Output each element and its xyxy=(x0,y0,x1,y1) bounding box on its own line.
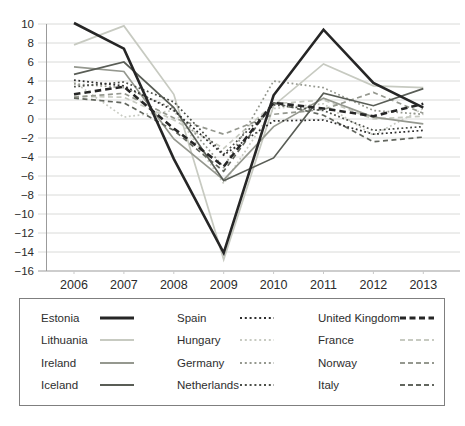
y-tick-label: −16 xyxy=(14,265,34,277)
x-tick-label: 2010 xyxy=(260,278,288,292)
legend-item-lithuania: Lithuania xyxy=(20,329,163,351)
y-tick-label: 6 xyxy=(28,56,34,68)
y-tick-label: 10 xyxy=(21,18,34,30)
legend-label: Norway xyxy=(318,357,399,369)
legend-label: Italy xyxy=(318,379,399,391)
legend-item-estonia: Estonia xyxy=(20,307,163,329)
series-line-netherlands xyxy=(74,82,423,154)
legend-item-norway: Norway xyxy=(309,352,444,374)
legend-item-iceland: Iceland xyxy=(20,374,163,396)
legend-label: United Kingdom xyxy=(318,312,399,324)
x-tick-label: 2011 xyxy=(310,278,337,292)
y-tick-label: −8 xyxy=(21,189,34,201)
legend-line-sample xyxy=(99,312,135,324)
legend-item-ireland: Ireland xyxy=(20,352,163,374)
line-chart: 1086420−2−4−6−8−10−12−14−162006200720082… xyxy=(0,0,465,296)
y-tick-label: −10 xyxy=(14,208,34,220)
figure: 1086420−2−4−6−8−10−12−14−162006200720082… xyxy=(0,0,465,426)
y-tick-label: 8 xyxy=(28,37,34,49)
x-tick-label: 2006 xyxy=(60,278,88,292)
legend-label: Netherlands xyxy=(177,379,239,391)
legend-label: Iceland xyxy=(41,379,99,391)
series-line-lithuania xyxy=(74,26,423,260)
y-tick-label: −6 xyxy=(21,170,34,182)
x-tick-label: 2012 xyxy=(359,278,387,292)
legend-line-sample xyxy=(239,357,275,369)
y-tick-label: −4 xyxy=(21,151,35,163)
y-tick-label: 0 xyxy=(28,113,34,125)
y-tick-label: 4 xyxy=(28,75,35,87)
legend-label: Hungary xyxy=(177,334,239,346)
legend-line-sample xyxy=(239,312,275,324)
legend-item-italy: Italy xyxy=(309,374,444,396)
legend-label: France xyxy=(318,334,399,346)
legend-label: Estonia xyxy=(41,312,99,324)
y-tick-label: −14 xyxy=(14,246,34,258)
legend-line-sample xyxy=(399,334,435,346)
legend-label: Lithuania xyxy=(41,334,99,346)
legend-item-france: France xyxy=(309,329,444,351)
legend-label: Ireland xyxy=(41,357,99,369)
y-tick-label: 2 xyxy=(28,94,34,106)
legend-line-sample xyxy=(239,334,275,346)
x-tick-label: 2009 xyxy=(210,278,238,292)
legend-item-united-kingdom: United Kingdom xyxy=(309,307,444,329)
x-tick-label: 2008 xyxy=(160,278,188,292)
legend-label: Germany xyxy=(177,357,239,369)
legend: EstoniaLithuaniaIrelandIcelandSpainHunga… xyxy=(19,298,445,406)
legend-line-sample xyxy=(99,334,135,346)
legend-line-sample xyxy=(399,379,435,391)
series-line-hungary xyxy=(74,82,423,184)
legend-line-sample xyxy=(99,379,135,391)
series-line-spain xyxy=(74,80,423,155)
legend-item-germany: Germany xyxy=(163,352,309,374)
legend-line-sample xyxy=(399,312,435,324)
legend-item-netherlands: Netherlands xyxy=(163,374,309,396)
legend-line-sample xyxy=(99,357,135,369)
legend-label: Spain xyxy=(177,312,239,324)
legend-item-spain: Spain xyxy=(163,307,309,329)
legend-item-hungary: Hungary xyxy=(163,329,309,351)
y-tick-label: −2 xyxy=(21,132,34,144)
legend-line-sample xyxy=(239,379,275,391)
legend-line-sample xyxy=(399,357,435,369)
x-tick-label: 2013 xyxy=(409,278,437,292)
y-tick-label: −12 xyxy=(14,227,34,239)
x-tick-label: 2007 xyxy=(110,278,138,292)
